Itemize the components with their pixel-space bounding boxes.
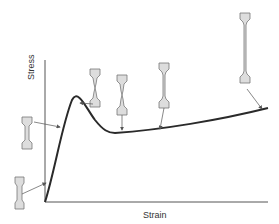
- specimen-stage-5: [159, 63, 169, 129]
- x-axis-label: Strain: [143, 210, 167, 220]
- specimen-stage-2: [22, 117, 60, 149]
- stress-strain-curve: [45, 96, 268, 202]
- stress-strain-diagram: [0, 0, 279, 224]
- specimen-stage-4: [117, 75, 127, 130]
- specimen-stage-6: [240, 13, 262, 109]
- specimen-stage-1: [15, 177, 46, 209]
- y-axis-label: Stress: [26, 54, 36, 80]
